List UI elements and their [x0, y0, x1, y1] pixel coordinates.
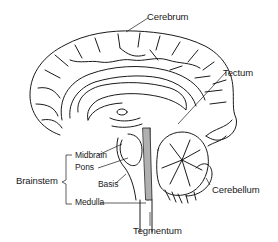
- cerebellum-leader: [206, 178, 210, 185]
- label-brainstem: Brainstem: [16, 176, 58, 186]
- tegmentum-strip: [143, 128, 152, 200]
- corpus-callosum: [78, 83, 187, 120]
- cerebrum-outline: [30, 31, 237, 140]
- label-medulla: Medulla: [75, 198, 104, 207]
- pons-outline: [120, 134, 142, 166]
- label-basis: Basis: [98, 180, 118, 189]
- brain-drawing: [0, 0, 278, 242]
- cerebrum-leader: [126, 18, 148, 32]
- label-tectum: Tectum: [223, 68, 253, 78]
- label-tegmentum: Tegmentum: [133, 226, 182, 236]
- brain-diagram: Cerebrum Tectum Midbrain Pons Basis Brai…: [0, 0, 278, 242]
- label-midbrain: Midbrain: [75, 151, 107, 160]
- label-pons: Pons: [75, 163, 94, 172]
- cerebellum-outline: [157, 132, 209, 195]
- label-cerebellum: Cerebellum: [212, 185, 260, 195]
- brainstem-bracket: [62, 155, 72, 204]
- tectum-leader: [178, 72, 226, 124]
- label-cerebrum: Cerebrum: [147, 12, 188, 22]
